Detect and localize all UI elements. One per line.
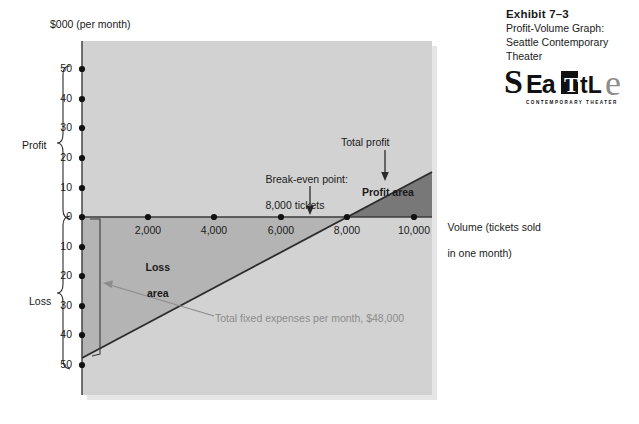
y-tick-20-loss: 20 (46, 269, 72, 281)
profit-brace-label: Profit (22, 139, 47, 152)
x-axis-title-line-1: Volume (tickets sold (448, 221, 541, 233)
logo-tagline: CONTEMPORARY THEATER (526, 100, 618, 105)
y-tick-50-profit: 50 (46, 62, 72, 74)
logo-letter-t: T (564, 72, 579, 97)
loss-brace (57, 216, 70, 369)
loss-brace-label: Loss (29, 295, 51, 308)
loss-area-line-1: Loss (146, 261, 171, 273)
logo-graphic: S Ea T tL e CONTEMPORARY THEATER (504, 62, 639, 108)
x-tick-6000: 6,000 (254, 224, 308, 236)
break-even-line-1: Break-even point: (266, 173, 348, 185)
break-even-annotation: Break-even point: 8,000 tickets (248, 160, 348, 226)
x-axis-title: Volume (tickets sold in one month) (430, 208, 541, 274)
logo-letter-s: S (504, 63, 523, 100)
loss-area-line-2: area (147, 287, 169, 299)
seattle-contemporary-theater-logo: S Ea T tL e CONTEMPORARY THEATER (504, 62, 639, 108)
logo-letters-ea: Ea (526, 70, 557, 98)
break-even-line-2: 8,000 tickets (266, 199, 325, 211)
y-tick-20-profit: 20 (46, 151, 72, 163)
total-profit-arrow (381, 150, 389, 181)
x-tick-2000: 2,000 (121, 224, 175, 236)
y-tick-40-profit: 40 (46, 92, 72, 104)
y-tick-50-loss: 50 (46, 358, 72, 370)
profit-volume-chart: $000 (per month) 50 40 30 20 10 0 10 20 … (0, 0, 470, 424)
exhibit-figure: $000 (per month) 50 40 30 20 10 0 10 20 … (0, 0, 639, 424)
x-tick-4000: 4,000 (187, 224, 241, 236)
fixed-expenses-label: Total fixed expenses per month, $48,000 (215, 312, 404, 325)
y-axis-title: $000 (per month) (50, 18, 131, 31)
total-profit-label: Total profit (341, 136, 389, 149)
logo-letters-tl: tL (580, 72, 602, 98)
profit-area-label: Profit area (362, 186, 414, 199)
x-tick-8000: 8,000 (320, 224, 374, 236)
exhibit-caption: Exhibit 7–3 Profit-Volume Graph: Seattle… (506, 8, 636, 64)
y-tick-0: 0 (46, 210, 72, 222)
loss-area-label: Loss area (121, 248, 177, 314)
exhibit-subtitle: Profit-Volume Graph: Seattle Contemporar… (506, 22, 636, 64)
x-axis-title-line-2: in one month) (448, 247, 512, 259)
y-tick-40-loss: 40 (46, 328, 72, 340)
logo-letter-e-swash: e (605, 63, 621, 103)
y-tick-10-loss: 10 (46, 240, 72, 252)
y-tick-30-profit: 30 (46, 121, 72, 133)
profit-brace (57, 66, 70, 219)
y-tick-10-profit: 10 (46, 181, 72, 193)
exhibit-title: Exhibit 7–3 (506, 8, 636, 20)
